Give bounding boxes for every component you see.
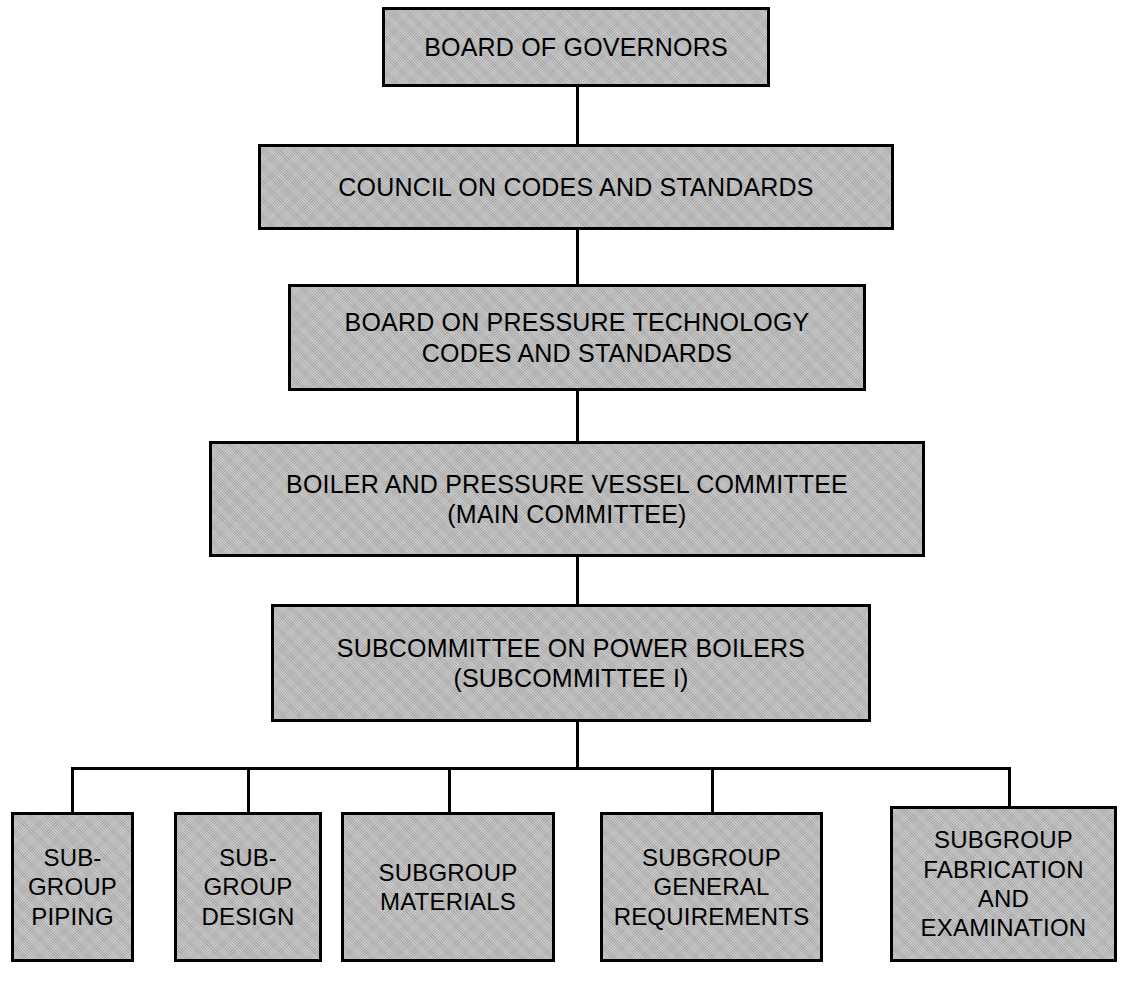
connector-council-to-board-pressure [576,229,579,285]
connector-board-pressure-to-bpv [576,390,579,442]
connector-drop-subgroup-general-requirements [711,767,714,813]
node-board-on-pressure-technology[interactable]: BOARD ON PRESSURE TECHNOLOGY CODES AND S… [288,284,866,391]
node-label: COUNCIL ON CODES AND STANDARDS [332,172,820,203]
connector-subcommittee-stem [576,721,579,770]
node-label: BOILER AND PRESSURE VESSEL COMMITTEE (MA… [280,469,854,530]
node-label: SUBCOMMITTEE ON POWER BOILERS (SUBCOMMIT… [331,633,811,694]
connector-governors-to-council [576,86,579,145]
node-council-on-codes-and-standards[interactable]: COUNCIL ON CODES AND STANDARDS [258,144,894,230]
connector-drop-subgroup-materials [448,767,451,813]
node-label: SUBGROUP MATERIALS [373,858,524,917]
node-label: BOARD ON PRESSURE TECHNOLOGY CODES AND S… [339,307,816,368]
node-subgroup-fabrication-and-examination[interactable]: SUBGROUP FABRICATION AND EXAMINATION [890,806,1117,962]
node-label: SUB- GROUP PIPING [22,843,123,931]
connector-bpv-to-subcommittee [576,556,579,605]
connector-drop-subgroup-piping [71,767,74,813]
node-label: SUBGROUP GENERAL REQUIREMENTS [608,843,816,931]
node-boiler-and-pressure-vessel-committee[interactable]: BOILER AND PRESSURE VESSEL COMMITTEE (MA… [209,441,925,557]
node-board-of-governors[interactable]: BOARD OF GOVERNORS [382,7,770,87]
node-subgroup-piping[interactable]: SUB- GROUP PIPING [11,812,134,962]
connector-drop-subgroup-design [247,767,250,813]
node-label: SUB- GROUP DESIGN [195,843,300,931]
node-subcommittee-on-power-boilers[interactable]: SUBCOMMITTEE ON POWER BOILERS (SUBCOMMIT… [271,604,871,722]
node-subgroup-materials[interactable]: SUBGROUP MATERIALS [341,812,555,962]
node-subgroup-general-requirements[interactable]: SUBGROUP GENERAL REQUIREMENTS [600,812,823,962]
organization-chart: BOARD OF GOVERNORS COUNCIL ON CODES AND … [0,0,1133,982]
connector-subgroup-bus [71,767,1011,770]
node-subgroup-design[interactable]: SUB- GROUP DESIGN [174,812,322,962]
node-label: SUBGROUP FABRICATION AND EXAMINATION [915,825,1093,942]
node-label: BOARD OF GOVERNORS [418,32,734,63]
